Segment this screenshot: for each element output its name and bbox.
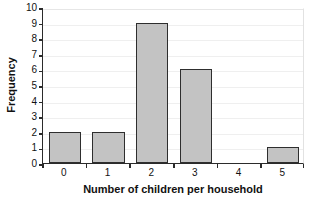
x-axis-tick-labels: 012345 bbox=[42, 168, 304, 182]
y-axis-title-text: Frequency bbox=[5, 57, 17, 113]
x-axis-tick-label: 0 bbox=[61, 168, 67, 178]
x-axis-tick-label: 3 bbox=[192, 168, 198, 178]
y-axis-tick-label: 6 bbox=[31, 65, 37, 75]
y-axis-tick-label: 4 bbox=[31, 97, 37, 107]
y-axis-tick-label: 0 bbox=[31, 159, 37, 169]
x-axis-tick-label: 5 bbox=[279, 168, 285, 178]
y-axis-tick-label: 3 bbox=[31, 112, 37, 122]
y-axis-tick-labels: 012345678910 bbox=[22, 8, 38, 164]
y-axis-tick-label: 5 bbox=[31, 81, 37, 91]
bar bbox=[49, 132, 81, 163]
y-axis-tick-label: 9 bbox=[31, 19, 37, 29]
bars-layer bbox=[43, 9, 303, 163]
y-axis-tick-label: 7 bbox=[31, 50, 37, 60]
frequency-histogram: Frequency 012345678910 012345 Number of … bbox=[0, 0, 311, 201]
x-axis-tick-label: 2 bbox=[148, 168, 154, 178]
bar bbox=[267, 147, 299, 163]
plot-area bbox=[42, 8, 304, 164]
x-axis-tick-label: 1 bbox=[105, 168, 111, 178]
bar bbox=[180, 69, 212, 163]
y-axis-tick-label: 10 bbox=[26, 3, 37, 13]
y-axis-tick-label: 1 bbox=[31, 143, 37, 153]
bar bbox=[92, 132, 124, 163]
x-axis-tick-label: 4 bbox=[236, 168, 242, 178]
bar bbox=[136, 23, 168, 163]
y-axis-title: Frequency bbox=[0, 0, 22, 170]
y-axis-tick-label: 2 bbox=[31, 128, 37, 138]
y-axis-tick-label: 8 bbox=[31, 34, 37, 44]
x-axis-title: Number of children per household bbox=[42, 183, 304, 195]
